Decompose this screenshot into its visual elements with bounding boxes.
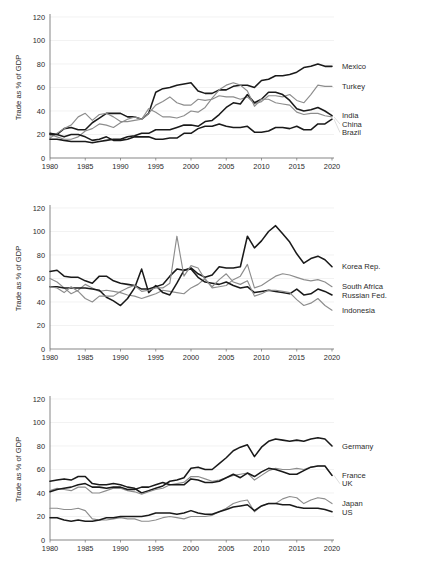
- x-tick-label: 2015: [289, 544, 305, 553]
- x-tick-label: 2020: [324, 544, 340, 553]
- x-tick-label: 2005: [218, 353, 234, 362]
- series-label-germany: Germany: [342, 442, 373, 451]
- x-tick-label: 2010: [253, 544, 269, 553]
- x-tick-label: 2005: [218, 544, 234, 553]
- figure-root: 0204060801001201980198519901995200020052…: [0, 0, 425, 575]
- y-tick-label: 20: [37, 130, 45, 139]
- x-tick-label: 1995: [148, 353, 164, 362]
- y-tick-label: 120: [33, 204, 45, 213]
- x-tick-label: 1985: [77, 544, 93, 553]
- y-tick-label: 60: [37, 274, 45, 283]
- x-tick-label: 2015: [289, 162, 305, 171]
- y-tick-label: 100: [33, 36, 45, 45]
- y-tick-label: 40: [37, 107, 45, 116]
- series-line: [50, 497, 332, 522]
- x-tick-label: 2000: [183, 162, 199, 171]
- y-tick-label: 120: [33, 395, 45, 404]
- series-line: [50, 92, 332, 143]
- series-line: [50, 226, 332, 289]
- y-tick-label: 40: [37, 489, 45, 498]
- label-leader-line: [334, 475, 340, 483]
- series-label-korea-rep: Korea Rep.: [342, 262, 380, 271]
- x-tick-label: 2010: [253, 162, 269, 171]
- series-label-russian-fed: Russian Fed.: [342, 291, 387, 300]
- x-tick-label: 2000: [183, 544, 199, 553]
- x-tick-label: 1995: [148, 162, 164, 171]
- series-label-uk: UK: [342, 479, 353, 488]
- y-tick-label: 80: [37, 442, 45, 451]
- y-tick-label: 20: [37, 512, 45, 521]
- series-label-turkey: Turkey: [342, 82, 365, 91]
- label-leader-line: [334, 117, 340, 124]
- series-label-us: US: [342, 508, 353, 517]
- y-tick-label: 60: [37, 83, 45, 92]
- chart-panel-1: 0204060801001201980198519901995200020052…: [0, 0, 425, 191]
- chart-panel-2: 0204060801001201980198519901995200020052…: [0, 191, 425, 382]
- y-tick-label: 80: [37, 60, 45, 69]
- x-tick-label: 2020: [324, 353, 340, 362]
- series-line: [50, 236, 332, 310]
- x-tick-label: 1980: [42, 544, 58, 553]
- label-leader-line: [334, 119, 340, 132]
- x-tick-label: 2015: [289, 353, 305, 362]
- x-tick-label: 1995: [148, 544, 164, 553]
- series-line: [50, 64, 332, 135]
- chart-panel-3: 0204060801001201980198519901995200020052…: [0, 382, 425, 573]
- x-tick-label: 1990: [112, 162, 128, 171]
- chart-svg: 0204060801001201980198519901995200020052…: [0, 191, 425, 382]
- series-label-indonesia: Indonesia: [342, 306, 376, 315]
- y-tick-label: 60: [37, 465, 45, 474]
- x-tick-label: 2000: [183, 353, 199, 362]
- chart-svg: 0204060801001201980198519901995200020052…: [0, 382, 425, 573]
- series-label-mexico: Mexico: [342, 62, 366, 71]
- x-tick-label: 1985: [77, 353, 93, 362]
- y-tick-label: 40: [37, 298, 45, 307]
- y-axis-title: Trade as % of GDP: [14, 55, 23, 121]
- chart-svg: 0204060801001201980198519901995200020052…: [0, 0, 425, 191]
- y-tick-label: 120: [33, 13, 45, 22]
- y-axis-title: Trade as % of GDP: [14, 246, 23, 312]
- series-line: [50, 466, 332, 494]
- y-tick-label: 100: [33, 418, 45, 427]
- x-tick-label: 1990: [112, 544, 128, 553]
- x-tick-label: 2005: [218, 162, 234, 171]
- x-tick-label: 1980: [42, 162, 58, 171]
- x-tick-label: 2020: [324, 162, 340, 171]
- x-tick-label: 1980: [42, 353, 58, 362]
- y-tick-label: 20: [37, 321, 45, 330]
- y-tick-label: 80: [37, 251, 45, 260]
- x-tick-label: 2010: [253, 353, 269, 362]
- x-tick-label: 1990: [112, 353, 128, 362]
- y-tick-label: 100: [33, 227, 45, 236]
- x-tick-label: 1985: [77, 162, 93, 171]
- series-label-brazil: Brazil: [342, 128, 361, 137]
- y-axis-title: Trade as % of GDP: [14, 437, 23, 503]
